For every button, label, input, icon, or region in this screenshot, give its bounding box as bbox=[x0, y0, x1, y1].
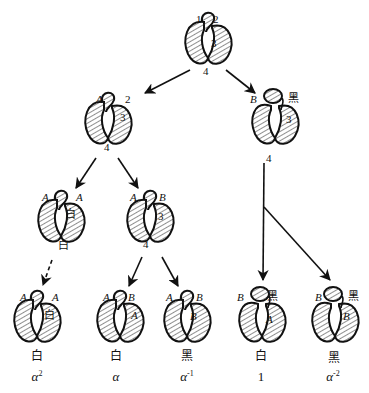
root-label-1: 1 bbox=[196, 14, 202, 25]
l2b-label-3: 3 bbox=[158, 211, 164, 222]
leaf1-label-a2: A bbox=[52, 292, 59, 303]
l2a-label-white-bottom: 白 bbox=[58, 240, 69, 251]
leaf5-label-black: 黑 bbox=[348, 291, 359, 302]
root-label-3: 3 bbox=[211, 38, 217, 49]
l2a-label-a2: A bbox=[76, 192, 83, 203]
arrow-l1-l2a bbox=[76, 158, 96, 188]
leaf3-power: α-1 bbox=[167, 369, 207, 385]
leaf4-power: 1 bbox=[241, 369, 281, 385]
leaf3-label-b: B bbox=[196, 292, 203, 303]
arrow-l2b-leaf3 bbox=[162, 257, 178, 286]
leaf5-power-exp: -2 bbox=[333, 369, 340, 378]
l1-left-label-4: 4 bbox=[104, 142, 110, 153]
leaf2-caption: 白 bbox=[101, 350, 131, 362]
l2a-label-white-right: 白 bbox=[65, 209, 76, 220]
leaf3-label-a: A bbox=[166, 292, 173, 303]
l1-right-label-4: 4 bbox=[266, 153, 272, 164]
l2b-label-a: A bbox=[130, 192, 137, 203]
arrow-l2b-leaf2 bbox=[129, 257, 142, 286]
knot-leaf-4 bbox=[239, 287, 285, 342]
root-label-4: 4 bbox=[203, 66, 209, 77]
l2a-label-a1: A bbox=[42, 192, 49, 203]
leaf3-caption: 黑 bbox=[172, 350, 202, 362]
leaf4-power-base: 1 bbox=[258, 369, 265, 384]
l2b-label-4: 4 bbox=[143, 239, 149, 250]
leaf2-label-right: A bbox=[131, 310, 138, 321]
l1-right-label-black: 黑 bbox=[288, 93, 299, 104]
leaf5-power: α-2 bbox=[313, 369, 353, 385]
leaf5-label-b: B bbox=[315, 292, 322, 303]
arrow-root-right bbox=[226, 70, 255, 93]
leaf5-label-right: B bbox=[343, 311, 350, 322]
leaf4-label-black: 黑 bbox=[267, 291, 278, 302]
leaf4-label-right: A bbox=[266, 314, 273, 325]
arrow-l1-l2b bbox=[118, 158, 138, 188]
arrows bbox=[43, 70, 330, 286]
l1-right-label-3: 3 bbox=[286, 114, 292, 125]
leaf2-power-base: α bbox=[113, 369, 120, 384]
leaf1-caption: 白 bbox=[22, 350, 52, 362]
l1-left-label-2: 2 bbox=[125, 94, 131, 105]
leaf4-caption: 白 bbox=[246, 350, 276, 362]
leaf4-label-b: B bbox=[237, 292, 244, 303]
knot-root bbox=[185, 13, 231, 64]
arrow-l1r-leaf5 bbox=[264, 207, 330, 280]
leaf1-power: α2 bbox=[17, 369, 57, 385]
leaf5-caption: 黑 bbox=[319, 352, 349, 364]
leaf1-power-exp: 2 bbox=[38, 369, 42, 378]
arrow-l2a-leaf1-dashed bbox=[43, 260, 52, 285]
leaf1-label-a1: A bbox=[20, 292, 27, 303]
l1-left-label-a: A bbox=[96, 94, 103, 105]
leaf3-label-right: B bbox=[190, 311, 197, 322]
diagram-canvas bbox=[0, 0, 369, 393]
leaf3-power-exp: -1 bbox=[187, 369, 194, 378]
arrow-l1r-leaf4 bbox=[263, 163, 264, 280]
leaf2-label-a: A bbox=[103, 292, 110, 303]
l2b-label-b: B bbox=[159, 192, 166, 203]
l1-right-label-b: B bbox=[250, 94, 257, 105]
leaf1-label-right: 白 bbox=[44, 310, 55, 321]
leaf2-label-b: B bbox=[128, 292, 135, 303]
l1-left-label-3: 3 bbox=[120, 112, 126, 123]
arrow-root-left bbox=[145, 70, 190, 93]
root-label-2: 2 bbox=[213, 14, 219, 25]
leaf2-power: α bbox=[96, 369, 136, 385]
